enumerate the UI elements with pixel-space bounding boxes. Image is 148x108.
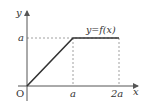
x-tick-a: a xyxy=(70,88,76,99)
y-tick-a: a xyxy=(18,32,24,43)
y-axis-label: y xyxy=(15,7,22,18)
x-tick-2a: 2a xyxy=(110,88,123,99)
origin-label: O xyxy=(16,88,24,99)
function-graph: y x O a a 2a y=f(x) xyxy=(0,0,148,108)
x-axis-label: x xyxy=(133,86,139,97)
curve-label: y=f(x) xyxy=(85,24,116,35)
